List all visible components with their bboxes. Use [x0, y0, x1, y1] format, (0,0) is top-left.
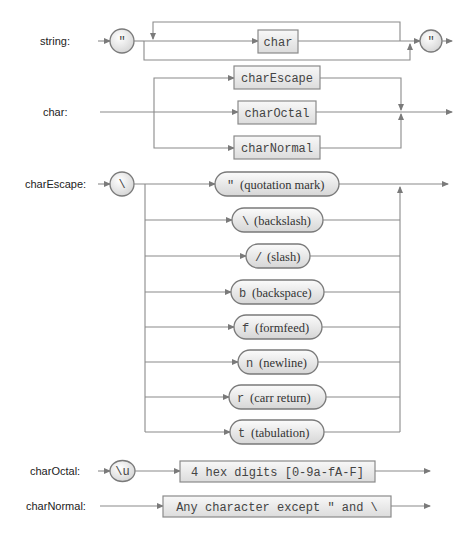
rule-charOctal: charOctal: \u 4 hex digits [0-9a-fA-F]	[30, 461, 430, 483]
nonterminal-charOctal: charOctal	[238, 101, 316, 124]
merge-path	[320, 78, 401, 110]
merge-path	[320, 114, 401, 148]
escape-option-backslash: \ (backslash)	[232, 208, 323, 232]
svg-text:charNormal: charNormal	[241, 142, 313, 156]
svg-text:charEscape: charEscape	[241, 72, 313, 86]
rule-label-charEscape: charEscape:	[25, 178, 86, 190]
rule-label-charOctal: charOctal:	[30, 465, 80, 477]
rule-label-charNormal: charNormal:	[26, 500, 86, 512]
svg-text:n: n	[246, 357, 253, 371]
nonterminal-charNormal: charNormal	[234, 136, 320, 159]
nonterminal-char: char	[258, 30, 298, 53]
svg-text:(tabulation): (tabulation)	[251, 426, 309, 440]
rule-label-string: string:	[40, 35, 70, 47]
svg-text:": "	[227, 179, 234, 193]
svg-text:(newline): (newline)	[259, 356, 307, 370]
svg-text:(backspace): (backspace)	[252, 286, 312, 300]
svg-text:charOctal: charOctal	[245, 107, 310, 121]
rule-char: char: charEscape charOctal charNormal	[43, 66, 452, 159]
escape-option-slash: / (slash)	[246, 244, 310, 268]
svg-text:Any character except " and \: Any character except " and \	[176, 501, 378, 515]
nonterminal-any-character: Any character except " and \	[163, 496, 391, 517]
escape-option-quotation-mark: " (quotation mark)	[215, 172, 339, 196]
escape-option-newline: n (newline)	[238, 350, 318, 374]
svg-text:(quotation mark): (quotation mark)	[240, 178, 324, 192]
terminal-unicode-prefix: \u	[110, 461, 135, 482]
terminal-backslash-prefix: \	[110, 172, 134, 196]
svg-text:(backslash): (backslash)	[254, 214, 311, 228]
rule-label-char: char:	[43, 106, 67, 118]
escape-option-formfeed: f (formfeed)	[234, 315, 322, 339]
svg-text:\: \	[118, 178, 125, 192]
svg-text:(formfeed): (formfeed)	[255, 321, 309, 335]
railroad-diagram: string: " char " char: charEscape	[0, 0, 471, 535]
nonterminal-hex-digits: 4 hex digits [0-9a-fA-F]	[180, 461, 375, 482]
svg-text:": "	[118, 35, 125, 49]
terminal-open-quote: "	[110, 29, 134, 53]
svg-text:r: r	[237, 392, 244, 406]
svg-text:": "	[427, 35, 434, 49]
rule-charEscape: charEscape: \ " (quotation mark) \ (back…	[25, 172, 448, 444]
svg-text:(carr return): (carr return)	[250, 391, 311, 405]
terminal-close-quote: "	[420, 30, 442, 52]
branch-path	[154, 112, 234, 148]
svg-text:b: b	[239, 287, 246, 301]
nonterminal-charEscape: charEscape	[234, 66, 320, 89]
escape-option-backspace: b (backspace)	[231, 280, 324, 304]
rule-string: string: " char "	[40, 22, 452, 60]
rule-charNormal: charNormal: Any character except " and \	[26, 496, 430, 517]
svg-text:\: \	[242, 215, 249, 229]
svg-text:f: f	[242, 322, 249, 336]
svg-text:4 hex digits [0-9a-fA-F]: 4 hex digits [0-9a-fA-F]	[191, 466, 364, 480]
branch-path	[154, 78, 234, 112]
escape-option-carriage-return: r (carr return)	[229, 385, 326, 409]
svg-text:/: /	[255, 251, 262, 265]
svg-text:char: char	[264, 36, 293, 50]
escape-option-tabulation: t (tabulation)	[230, 420, 324, 444]
svg-text:\u: \u	[115, 465, 129, 479]
svg-text:(slash): (slash)	[267, 250, 300, 264]
svg-text:t: t	[238, 427, 245, 441]
